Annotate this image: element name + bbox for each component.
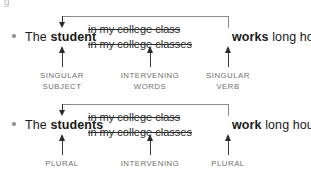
intervening-phrase-1: in my college class <box>88 110 216 125</box>
subject-prefix: The <box>25 30 50 44</box>
arrow-up-icon <box>150 140 151 155</box>
annotation-label-line2: SUBJECT <box>16 82 108 93</box>
subject-prefix: The <box>25 118 50 132</box>
predicate-remainder: long hours. <box>262 118 311 132</box>
annotation-label: PLURAL <box>182 159 274 170</box>
annotation-label-line1: INTERVENING <box>121 159 180 168</box>
annotation-label-line2: VERB <box>182 82 274 93</box>
arrow-up-icon <box>62 52 63 67</box>
arrow-up-icon <box>150 52 151 67</box>
arrow-up-head-icon <box>59 134 65 141</box>
arrow-up-icon <box>228 52 229 67</box>
cropped-text-artifact: g <box>4 0 10 7</box>
sentence-plural: The students in my college class in my c… <box>0 110 311 140</box>
arrow-up-head-icon <box>225 46 231 53</box>
annotation-label-line1: INTERVENING <box>121 71 180 80</box>
annotation-label-line1: SINGULAR <box>40 71 84 80</box>
annotation-row-singular: SINGULAR SUBJECT INTERVENING WORDS SINGU… <box>0 52 311 92</box>
intervening-phrase-1: in my college class <box>88 22 216 37</box>
arrow-up-head-icon <box>59 46 65 53</box>
sentence-singular: The student in my college class in my co… <box>0 22 311 52</box>
annotation-label-line1: PLURAL <box>45 159 78 168</box>
annotation-label: SINGULAR SUBJECT <box>16 71 108 92</box>
bracket-horizontal-bar <box>62 104 229 105</box>
bullet-icon <box>12 122 16 126</box>
annotation-plural-verb: PLURAL <box>182 140 274 170</box>
annotation-plural-subject: PLURAL <box>16 140 108 170</box>
arrow-up-head-icon <box>225 134 231 141</box>
annotation-label-line1: SINGULAR <box>206 71 250 80</box>
annotation-label: SINGULAR VERB <box>182 71 274 92</box>
bullet-icon <box>12 34 16 38</box>
grammar-diagram-figure: { "artifact_text": "g", "examples": [ { … <box>0 0 311 175</box>
annotation-label: PLURAL <box>16 159 108 170</box>
annotation-singular-subject: SINGULAR SUBJECT <box>16 52 108 92</box>
verb-word: work <box>232 118 262 132</box>
arrow-up-head-icon <box>147 46 153 53</box>
predicate-phrase: work long hours. <box>232 118 311 132</box>
verb-word: works <box>232 30 269 44</box>
predicate-phrase: works long hours. <box>232 30 311 44</box>
annotation-singular-verb: SINGULAR VERB <box>182 52 274 92</box>
subject-phrase: The student <box>25 30 96 44</box>
arrow-up-icon <box>228 140 229 155</box>
annotation-label-line1: PLURAL <box>211 159 244 168</box>
annotation-row-plural: PLURAL INTERVENING PLURAL <box>0 140 311 175</box>
arrow-up-icon <box>62 140 63 155</box>
bracket-horizontal-bar <box>62 16 229 17</box>
predicate-remainder: long hours. <box>269 30 311 44</box>
arrow-up-head-icon <box>147 134 153 141</box>
